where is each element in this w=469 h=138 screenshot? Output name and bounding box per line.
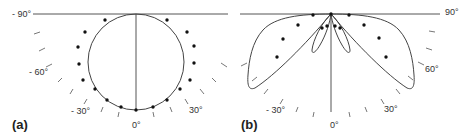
panel-b-label-minus-30: - 30° [266,105,286,115]
panel-b-left-lobe [248,14,331,89]
panel-a-label-minus-60: - 60° [29,67,49,77]
panel-b-label-0: 0° [330,120,339,130]
panel-a-label-minus-90: - 90° [12,9,32,19]
panel-b-right-lobe [331,14,414,89]
panel-b-label-90: 90° [445,7,459,17]
polar-diagrams: - 90° - 60° - 30° 0° 30° (a) [0,0,469,138]
panel-a: - 90° - 60° - 30° 0° 30° (a) [12,9,228,132]
panel-a-label-minus-30: - 30° [71,106,91,116]
panel-a-caption: (a) [12,117,28,132]
panel-b-caption: (b) [241,117,258,132]
panel-a-label-30: 30° [189,105,203,115]
panel-b-label-30: 30° [384,104,398,114]
panel-b: 90° 60° 30° - 30° 0° (b) [240,7,459,132]
panel-a-label-0: 0° [132,120,141,130]
panel-b-label-60: 60° [425,64,439,74]
